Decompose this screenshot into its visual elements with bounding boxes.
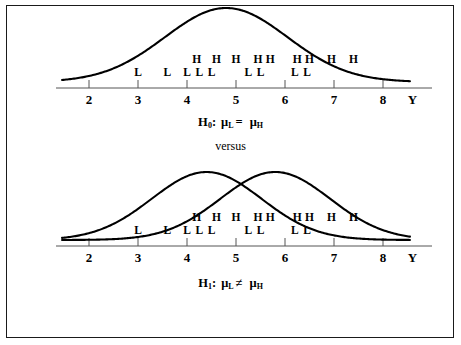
- null-hypothesis-panel: 2345678YLLLLLLLLLHHHHHHHHH: [0, 0, 461, 110]
- relation-operator: ≠: [234, 277, 245, 290]
- top-panel-graphics: [0, 0, 461, 110]
- relation-operator: =: [234, 116, 245, 129]
- bottom-panel-graphics: [0, 158, 461, 268]
- mu-right: μ: [250, 276, 257, 290]
- hypothesis-symbol: H: [198, 276, 208, 290]
- hypothesis-colon: :: [212, 115, 216, 129]
- alternative-hypothesis-panel: 2345678YLLLLLLLLLHHHHHHHHH: [0, 158, 461, 268]
- low-group-normal-curve: [62, 172, 410, 240]
- alternative-hypothesis-text: H1:μL≠μH: [0, 277, 461, 291]
- figure-root: 2345678YLLLLLLLLLHHHHHHHHH H0:μL=μH vers…: [0, 0, 461, 345]
- hypothesis-symbol: H: [198, 115, 208, 129]
- versus-label: versus: [0, 140, 461, 152]
- mu-right: μ: [250, 115, 257, 129]
- combined-normal-curve: [62, 8, 410, 81]
- mu-right-subscript: H: [257, 121, 263, 130]
- null-hypothesis-text: H0:μL=μH: [0, 116, 461, 130]
- mu-right-subscript: H: [257, 282, 263, 291]
- hypothesis-colon: :: [212, 276, 216, 290]
